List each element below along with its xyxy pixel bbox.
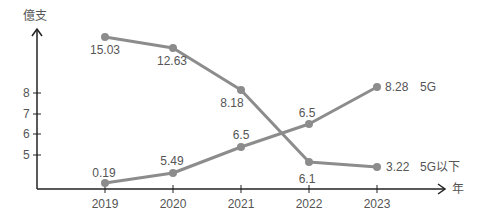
data-point <box>169 44 177 52</box>
point-label: 15.03 <box>90 43 120 57</box>
data-point <box>101 179 109 187</box>
point-label: 8.18 <box>220 96 244 110</box>
data-point <box>373 163 381 171</box>
point-label: 5.49 <box>160 154 184 168</box>
y-axis-title: 億支 <box>23 9 47 23</box>
x-tick-label: 2019 <box>92 197 119 211</box>
x-tick-label: 2023 <box>364 197 391 211</box>
x-tick-label: 2022 <box>296 197 323 211</box>
line-chart: 億支 8 7 6 5 年 2019 2020 2021 2022 2023 15… <box>0 0 481 219</box>
x-tick-label: 2021 <box>228 197 255 211</box>
data-point <box>305 120 313 128</box>
y-tick-label: 5 <box>23 148 30 162</box>
y-tick-label: 8 <box>23 86 30 100</box>
point-label: 8.28 <box>385 80 409 94</box>
series-5g: 0.19 5.49 6.5 6.5 8.28 5G <box>92 80 436 187</box>
data-point <box>305 158 313 166</box>
chart-svg: 億支 8 7 6 5 年 2019 2020 2021 2022 2023 15… <box>0 0 481 219</box>
y-tick-label: 6 <box>23 127 30 141</box>
point-label: 6.5 <box>299 106 316 120</box>
point-label: 12.63 <box>157 54 187 68</box>
point-label: 6.5 <box>233 128 250 142</box>
data-point <box>169 169 177 177</box>
point-label: 6.1 <box>299 172 316 186</box>
y-ticks: 8 7 6 5 <box>23 86 41 162</box>
data-point <box>101 33 109 41</box>
y-tick-label: 7 <box>23 107 30 121</box>
point-label: 0.19 <box>92 166 116 180</box>
series-label-below-5g: 5G以下 <box>420 160 460 174</box>
point-label: 3.22 <box>386 160 410 174</box>
x-tick-label: 2020 <box>160 197 187 211</box>
series-below-5g: 15.03 12.63 8.18 6.1 3.22 5G以下 <box>90 33 460 186</box>
data-point <box>237 86 245 94</box>
data-point <box>237 143 245 151</box>
data-point <box>373 83 381 91</box>
x-axis-title: 年 <box>452 182 464 196</box>
series-label-5g: 5G <box>420 80 436 94</box>
